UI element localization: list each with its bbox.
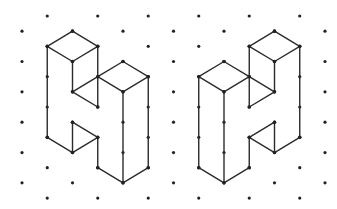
- cube-edge: [73, 77, 98, 92]
- cube-edge: [98, 77, 123, 92]
- vertex-dot: [71, 151, 75, 155]
- cube-edge: [275, 31, 300, 46]
- cube-edge: [275, 137, 300, 152]
- grid-dot: [323, 121, 326, 124]
- vertex-dot: [247, 75, 251, 79]
- vertex-dot: [247, 105, 251, 109]
- cube-edge: [73, 31, 98, 46]
- grid-dot: [20, 60, 23, 63]
- grid-dot: [121, 30, 124, 33]
- vertex-dot: [222, 181, 226, 185]
- grid-dot: [323, 30, 326, 33]
- cube-edge: [73, 46, 98, 61]
- cube-edge: [249, 77, 274, 92]
- vertex-dot: [71, 29, 75, 33]
- grid-dot: [20, 121, 23, 124]
- isometric-dot-paper: [0, 0, 337, 209]
- grid-dot: [20, 30, 23, 33]
- cube-edge: [199, 62, 224, 77]
- vertex-dot: [96, 105, 100, 109]
- vertex-dot: [273, 60, 277, 64]
- grid-dot: [147, 196, 150, 199]
- cube-edge: [249, 137, 274, 152]
- grid-dot: [172, 90, 175, 93]
- grid-dot: [323, 181, 326, 184]
- cube-edge: [47, 31, 72, 46]
- vertex-dot: [96, 75, 100, 79]
- cube-edge: [47, 46, 72, 61]
- cube-edge: [123, 168, 148, 183]
- grid-dot: [298, 166, 301, 169]
- vertex-dot: [146, 75, 150, 79]
- vertex-dot: [298, 136, 302, 140]
- grid-dot: [96, 196, 99, 199]
- grid-dot: [172, 181, 175, 184]
- cube-edge: [123, 62, 148, 77]
- grid-dot: [172, 60, 175, 63]
- vertex-dot: [247, 166, 251, 170]
- cube-edge: [98, 62, 123, 77]
- cube-edge: [47, 137, 72, 152]
- grid-dot: [323, 90, 326, 93]
- grid-dot: [197, 45, 200, 48]
- vertex-dot: [96, 45, 100, 49]
- vertex-dot: [71, 120, 75, 124]
- vertex-dot: [273, 151, 277, 155]
- vertex-dot: [247, 45, 251, 49]
- cube-edge: [249, 122, 274, 137]
- cube-edge: [224, 62, 249, 77]
- grid-dot: [46, 166, 49, 169]
- grid-dot: [20, 181, 23, 184]
- vertex-dot: [71, 60, 75, 64]
- vertex-dot: [273, 29, 277, 33]
- cube-edge: [123, 77, 148, 92]
- cube-edge: [275, 46, 300, 61]
- cube-edge: [73, 92, 98, 107]
- cube-edge: [199, 77, 224, 92]
- grid-dot: [298, 14, 301, 17]
- grid-dot: [96, 14, 99, 17]
- vertex-dot: [121, 181, 125, 185]
- vertex-dot: [222, 90, 226, 94]
- vertex-dot: [273, 90, 277, 94]
- vertex-dot: [197, 166, 201, 170]
- cube-edge: [249, 92, 274, 107]
- grid-dot: [46, 196, 49, 199]
- grid-dot: [197, 14, 200, 17]
- grid-dots: [20, 14, 326, 199]
- diagram-svg: [0, 0, 337, 209]
- grid-dot: [222, 30, 225, 33]
- vertex-dot: [71, 90, 75, 94]
- vertex-dot: [298, 45, 302, 49]
- vertex-dot: [45, 136, 49, 140]
- left-cube-solid: [45, 29, 150, 184]
- grid-dot: [147, 45, 150, 48]
- cube-edge: [98, 168, 123, 183]
- right-cube-solid-mirror: [197, 29, 302, 184]
- grid-dot: [273, 181, 276, 184]
- vertex-dot: [121, 90, 125, 94]
- grid-dot: [46, 14, 49, 17]
- vertex-dot: [45, 45, 49, 49]
- vertex-dot: [273, 120, 277, 124]
- vertex-dot: [121, 60, 125, 64]
- grid-dot: [248, 196, 251, 199]
- cube-edge: [249, 46, 274, 61]
- cube-edge: [73, 122, 98, 137]
- vertex-dot: [222, 60, 226, 64]
- grid-dot: [248, 14, 251, 17]
- cube-edge: [224, 168, 249, 183]
- grid-dot: [323, 60, 326, 63]
- grid-dot: [197, 196, 200, 199]
- grid-dot: [298, 196, 301, 199]
- vertex-dot: [197, 75, 201, 79]
- grid-dot: [20, 151, 23, 154]
- grid-dot: [172, 30, 175, 33]
- vertex-dot: [146, 166, 150, 170]
- grid-dot: [323, 151, 326, 154]
- grid-dot: [147, 14, 150, 17]
- cube-edge: [249, 31, 274, 46]
- vertex-dot: [96, 136, 100, 140]
- cube-edge: [224, 77, 249, 92]
- vertex-dot: [247, 136, 251, 140]
